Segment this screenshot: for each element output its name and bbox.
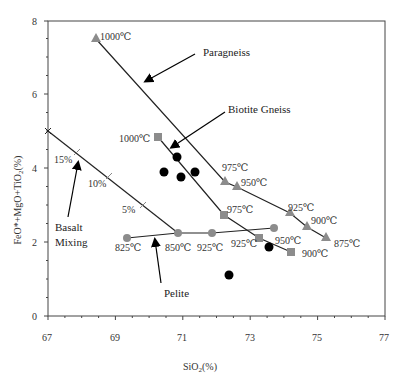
x-tick-label: 75 (312, 332, 322, 343)
x-axis-title: SiO2(%) (183, 361, 217, 374)
temp-label: 975℃ (227, 204, 253, 215)
biotite-gneiss-markers (154, 133, 295, 256)
basalt-label: Basalt (55, 221, 83, 233)
basalt-mixing-line (48, 131, 178, 233)
temp-label: 975℃ (222, 162, 248, 173)
temp-label: 925℃ (231, 238, 257, 249)
pelite-arrow (155, 240, 161, 283)
temp-label: 1000℃ (100, 31, 131, 42)
plot-frame (48, 21, 385, 316)
temp-label: 850℃ (165, 242, 191, 253)
temp-label: 950℃ (275, 235, 301, 246)
y-tick-label: 4 (32, 163, 37, 174)
y-tick-labels: 0 2 4 6 8 (32, 16, 37, 322)
temp-label: 950℃ (241, 177, 267, 188)
basalt-mixing-arrow (68, 163, 78, 217)
mix-label: 5% (122, 204, 135, 215)
y-axis-title: FeO*+MgO+TiO2(%) (12, 156, 25, 245)
temp-label: 925℃ (197, 242, 223, 253)
temp-label: 900℃ (302, 248, 328, 259)
temp-label: 1000℃ (119, 133, 150, 144)
chart-canvas: 0 2 4 6 8 67 69 71 73 75 77 Si (0, 0, 402, 386)
x-tick-label: 71 (177, 332, 187, 343)
x-tick-label: 67 (42, 332, 52, 343)
x-tick-label: 73 (245, 332, 255, 343)
temp-label: 925℃ (288, 202, 314, 213)
y-tick-label: 2 (32, 237, 37, 248)
mix-label: 15% (54, 154, 72, 165)
y-tick-label: 8 (32, 16, 37, 27)
y-axis (44, 21, 48, 316)
temp-label: 825℃ (115, 242, 141, 253)
y-tick-label: 6 (32, 89, 37, 100)
temp-label: 900℃ (311, 215, 337, 226)
paragneiss-label: Paragneiss (203, 46, 250, 58)
paragneiss-arrow (146, 54, 195, 81)
temp-label: 875℃ (334, 238, 360, 249)
biotite-gneiss-label: Biotite Gneiss (228, 103, 291, 115)
y-tick-label: 0 (32, 311, 37, 322)
x-tick-label: 69 (110, 332, 120, 343)
x-tick-label: 77 (379, 332, 389, 343)
x-axis (48, 316, 385, 320)
pelite-label: Pelite (164, 287, 189, 299)
mix-label: 10% (88, 178, 106, 189)
sample-markers (160, 153, 274, 280)
biotite-gneiss-arrow (172, 112, 225, 147)
mixing-label: Mixing (55, 236, 88, 248)
x-tick-labels: 67 69 71 73 75 77 (42, 332, 389, 343)
